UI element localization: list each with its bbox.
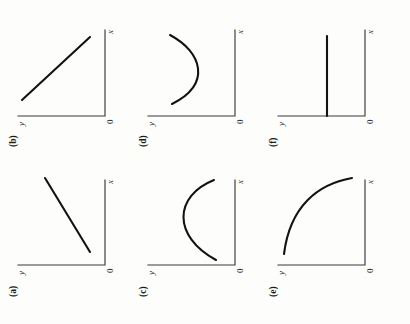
panel-a-tag: (a) (9, 286, 19, 297)
panel-c-y-axis-label: y (147, 271, 156, 275)
panel-b-axes (18, 30, 105, 116)
panel-d-x-axis-label: x (236, 30, 245, 34)
panel-f: x 0 y (f) (260, 0, 390, 162)
panel-a-axes (18, 180, 105, 265)
panel-a: x 0 y (a) (0, 162, 130, 324)
panel-e-tag: (e) (269, 286, 279, 297)
panel-a-curve (45, 178, 90, 252)
panel-c-x-axis-label: x (236, 180, 245, 184)
panel-d-tag: (d) (139, 135, 149, 147)
panel-d-axes (148, 30, 235, 116)
panel-a-plot (0, 162, 130, 324)
panel-b-origin-label: 0 (106, 120, 115, 125)
panel-f-origin-label: 0 (366, 120, 375, 125)
panel-f-tag: (f) (269, 138, 279, 148)
panel-b-y-axis-label: y (17, 122, 26, 126)
panel-f-axes (278, 30, 365, 116)
panel-d-origin-label: 0 (236, 120, 245, 125)
panel-e: x 0 y (e) (260, 162, 390, 324)
panel-c: x 0 y (c) (130, 162, 260, 324)
panel-e-x-axis-label: x (366, 180, 375, 184)
panel-c-axes (148, 180, 235, 265)
panel-b-curve (22, 37, 90, 100)
panel-b-plot (0, 0, 130, 162)
panel-e-curve (284, 178, 352, 254)
panel-b: x 0 y (b) (0, 0, 130, 162)
figure-sheet: x 0 y (b) x 0 y (d) x 0 y (f) x 0 y (a (0, 0, 410, 324)
panel-d-y-axis-label: y (147, 122, 156, 126)
panel-b-tag: (b) (9, 135, 19, 147)
panel-f-plot (260, 0, 390, 162)
panel-e-y-axis-label: y (277, 271, 286, 275)
panel-d: x 0 y (d) (130, 0, 260, 162)
panel-d-curve (170, 35, 198, 104)
panel-b-x-axis-label: x (106, 30, 115, 34)
panel-c-plot (130, 162, 260, 324)
panel-a-x-axis-label: x (106, 180, 115, 184)
panel-c-tag: (c) (139, 286, 149, 297)
panel-a-y-axis-label: y (17, 271, 26, 275)
panel-f-y-axis-label: y (277, 122, 286, 126)
panel-e-origin-label: 0 (366, 269, 375, 274)
panel-e-plot (260, 162, 390, 324)
panel-f-x-axis-label: x (366, 30, 375, 34)
panel-a-origin-label: 0 (106, 269, 115, 274)
panel-c-origin-label: 0 (236, 269, 245, 274)
panel-c-curve (184, 180, 217, 260)
panel-e-axes (278, 180, 365, 265)
panel-d-plot (130, 0, 260, 162)
